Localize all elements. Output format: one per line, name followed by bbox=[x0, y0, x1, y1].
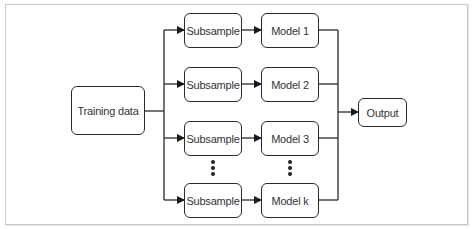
subsample-node-2: Subsample bbox=[184, 67, 242, 102]
subsample-label: Subsample bbox=[186, 133, 239, 145]
model-label: Model k bbox=[271, 195, 308, 207]
model-label: Model 2 bbox=[271, 79, 309, 91]
training-data-node: Training data bbox=[71, 86, 145, 135]
model-node-3: Model 3 bbox=[261, 121, 319, 156]
model-node-2: Model 2 bbox=[261, 67, 319, 102]
model-ellipsis-icon bbox=[288, 160, 292, 176]
subsample-ellipsis-icon bbox=[211, 160, 215, 176]
model-label: Model 1 bbox=[271, 25, 309, 37]
subsample-node-k: Subsample bbox=[184, 183, 242, 218]
subsample-node-3: Subsample bbox=[184, 121, 242, 156]
subsample-label: Subsample bbox=[186, 195, 239, 207]
training-data-label: Training data bbox=[77, 105, 138, 117]
subsample-node-1: Subsample bbox=[184, 13, 242, 48]
model-node-k: Model k bbox=[261, 183, 319, 218]
output-node: Output bbox=[358, 98, 407, 127]
subsample-label: Subsample bbox=[186, 79, 239, 91]
output-label: Output bbox=[367, 107, 399, 119]
model-node-1: Model 1 bbox=[261, 13, 319, 48]
model-label: Model 3 bbox=[271, 133, 309, 145]
subsample-label: Subsample bbox=[186, 25, 239, 37]
